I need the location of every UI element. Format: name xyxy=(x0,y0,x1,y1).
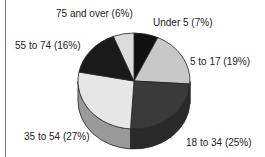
label-35-to-54: 35 to 54 (27%) xyxy=(24,131,90,142)
label-under-5: Under 5 (7%) xyxy=(153,17,212,28)
label-75-and-over: 75 and over (6%) xyxy=(56,8,133,19)
label-55-to-74: 55 to 74 (16%) xyxy=(15,40,81,51)
label-18-to-34: 18 to 34 (25%) xyxy=(186,137,252,148)
label-5-to-17: 5 to 17 (19%) xyxy=(190,56,250,67)
